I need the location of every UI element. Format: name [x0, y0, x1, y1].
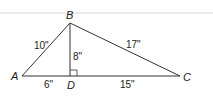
vertex-a-label: A: [10, 70, 18, 82]
length-ab: 10": [34, 40, 49, 51]
right-angle-marker: [70, 70, 77, 76]
triangle-diagram: B A C D 10" 17" 8" 6" 15": [0, 0, 213, 101]
length-dc: 15": [120, 79, 135, 90]
vertex-d-label: D: [67, 79, 75, 91]
vertex-b-label: B: [66, 9, 73, 21]
length-bc: 17": [126, 39, 141, 50]
side-bc: [70, 23, 180, 76]
length-bd: 8": [73, 51, 83, 62]
vertex-c-label: C: [183, 71, 191, 83]
length-ad: 6": [44, 79, 54, 90]
